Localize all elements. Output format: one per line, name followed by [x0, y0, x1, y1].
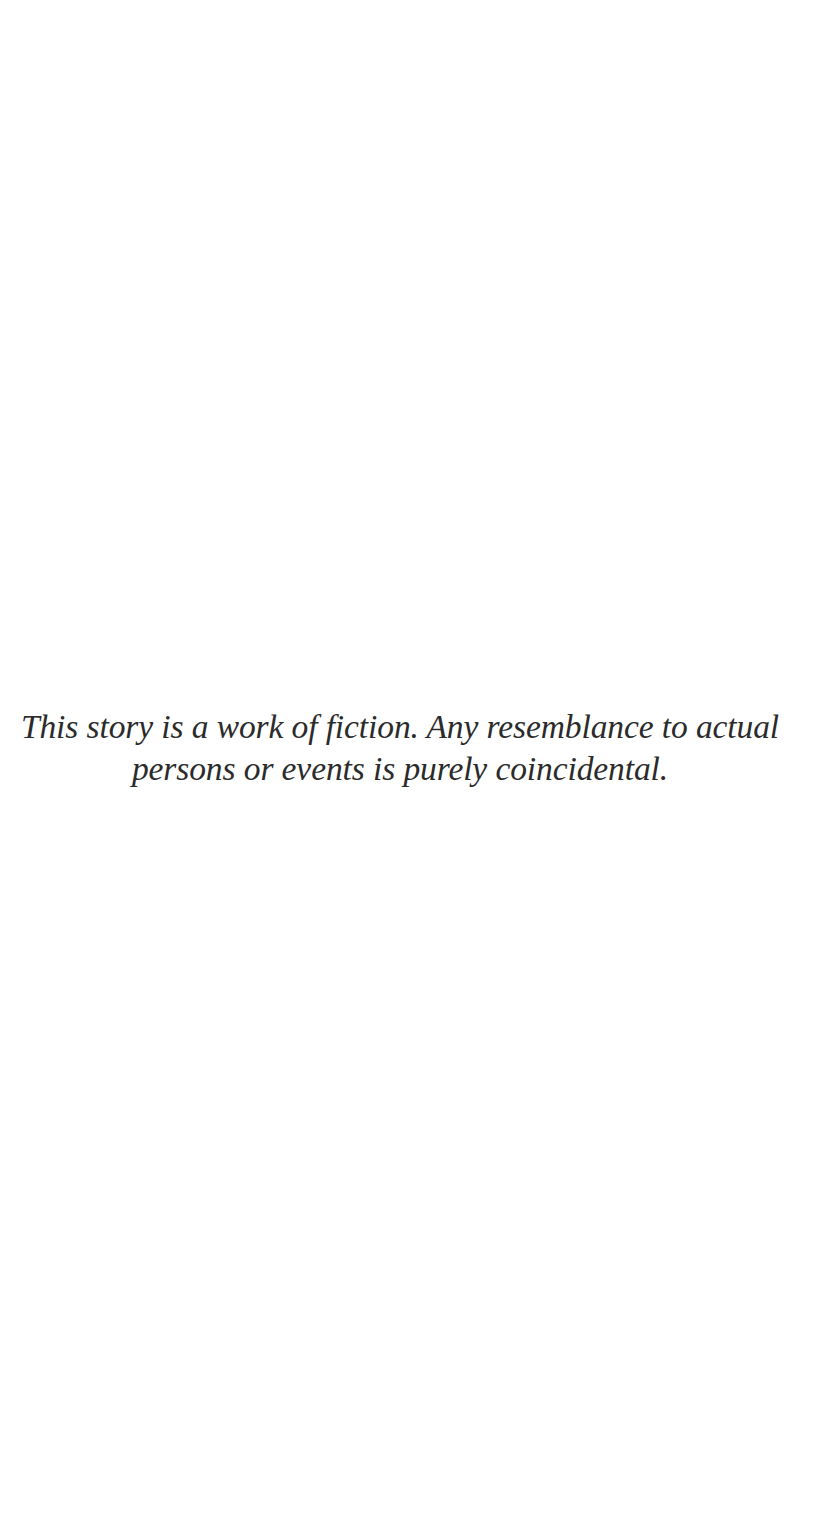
page-top-whitespace — [0, 0, 835, 706]
disclaimer-block: This story is a work of fiction. Any res… — [0, 706, 800, 790]
page-bottom-whitespace — [0, 800, 835, 1534]
page-canvas: This story is a work of fiction. Any res… — [0, 0, 835, 1534]
disclaimer-text: This story is a work of fiction. Any res… — [0, 706, 800, 790]
